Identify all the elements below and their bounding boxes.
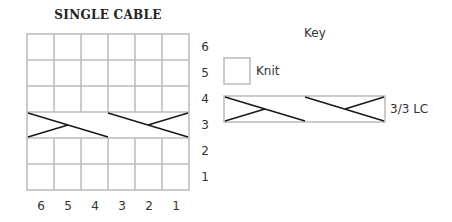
chart-grid (27, 34, 189, 190)
key-knit-symbol (224, 58, 250, 84)
col-label-1: 1 (169, 199, 183, 213)
col-label-2: 2 (142, 199, 156, 213)
key-cable-symbol (224, 96, 385, 122)
cable-symbol-left (28, 113, 108, 137)
col-label-6: 6 (34, 199, 48, 213)
col-label-4: 4 (88, 199, 102, 213)
row-label-6: 6 (198, 40, 212, 54)
col-label-3: 3 (115, 199, 129, 213)
col-label-5: 5 (61, 199, 75, 213)
key-knit-label: Knit (256, 64, 280, 78)
key-title: Key (304, 26, 326, 40)
row-label-5: 5 (198, 66, 212, 80)
knitting-chart-graphic (0, 0, 452, 222)
key-cable-label: 3/3 LC (390, 102, 428, 116)
row-label-3: 3 (198, 118, 212, 132)
row-label-1: 1 (198, 170, 212, 184)
cable-symbol-right (108, 113, 188, 137)
row-label-2: 2 (198, 144, 212, 158)
row-label-4: 4 (198, 92, 212, 106)
